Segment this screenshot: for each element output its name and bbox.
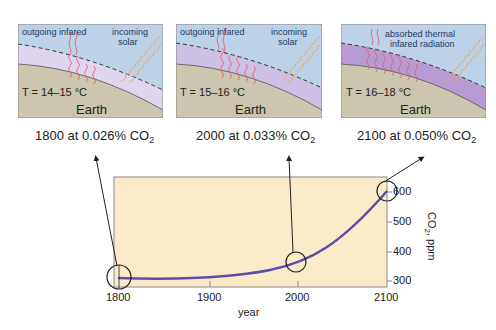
caption-2100: 2100 at 0.050% CO2 (357, 128, 476, 145)
x-axis-label: year (238, 306, 259, 318)
arrow-2100 (384, 158, 422, 182)
temperature-label: T = 15–16 °C (180, 86, 245, 98)
x-tick-2000: 2000 (285, 291, 309, 303)
x-tick-2100: 2100 (374, 291, 398, 303)
temperature-label: T = 16–18 °C (346, 86, 411, 98)
y-tick-400: 400 (393, 245, 411, 257)
label-outgoing-infrared: outgoing infared (22, 27, 87, 37)
earth-label: Earth (76, 102, 107, 117)
y-axis-label: CO2, ppm (423, 212, 438, 260)
earth-label: Earth (235, 102, 266, 117)
y-axis-ticks (387, 192, 392, 281)
caption-1800: 1800 at 0.026% CO2 (35, 128, 154, 145)
label-solar: solar (278, 37, 298, 47)
caption-2000: 2000 at 0.033% CO2 (196, 128, 315, 145)
earth-label: Earth (400, 102, 431, 117)
y-tick-500: 500 (393, 215, 411, 227)
temperature-label: T = 14–15 °C (22, 86, 87, 98)
y-tick-600: 600 (393, 185, 411, 197)
label-infrared-radiation: infared radiation (390, 39, 455, 49)
diagram-canvas (0, 0, 496, 330)
y-tick-300: 300 (393, 274, 411, 286)
label-incoming: incoming (112, 27, 148, 37)
label-incoming: incoming (271, 27, 307, 37)
co2-chart (107, 177, 397, 289)
x-tick-1800: 1800 (106, 291, 130, 303)
label-absorbed-thermal: absorbed thermal (385, 29, 455, 39)
label-outgoing-infrared: outgoing infared (180, 27, 245, 37)
x-tick-1900: 1900 (197, 291, 221, 303)
label-solar: solar (118, 37, 138, 47)
